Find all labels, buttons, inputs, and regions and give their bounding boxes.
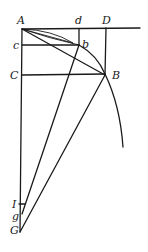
label-d: d [75, 14, 82, 27]
label-C: C [10, 69, 19, 82]
label-G: G [10, 224, 19, 237]
segment-bg [22, 45, 79, 214]
segment-BG [20, 75, 105, 232]
label-c: c [13, 39, 19, 52]
geometry-diagram: A d D c b C B I g G [0, 0, 148, 252]
chord-AB [22, 29, 105, 75]
label-B: B [111, 69, 120, 82]
tangent-line-AD [22, 28, 140, 29]
segment-CB [22, 74, 105, 75]
label-D: D [101, 14, 111, 27]
segment-DB [105, 28, 106, 75]
label-b: b [82, 38, 89, 51]
label-A: A [16, 14, 25, 27]
label-g: g [12, 210, 19, 223]
arc-bB [79, 45, 123, 147]
axis-line-AG [20, 29, 22, 232]
